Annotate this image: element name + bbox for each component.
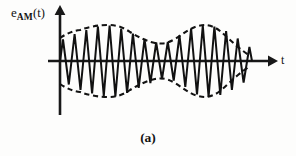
y-axis-label: eAM(t) (11, 6, 45, 22)
t-axis-arrowhead (268, 56, 278, 67)
am-waveform-figure: eAM(t) t (a) (0, 0, 296, 156)
t-axis-label: t (281, 54, 284, 66)
figure-caption: (a) (0, 131, 296, 145)
y-axis-label-argument: (t) (33, 6, 45, 20)
y-axis-label-subscript: AM (17, 12, 33, 22)
y-axis-arrowhead (55, 5, 66, 15)
